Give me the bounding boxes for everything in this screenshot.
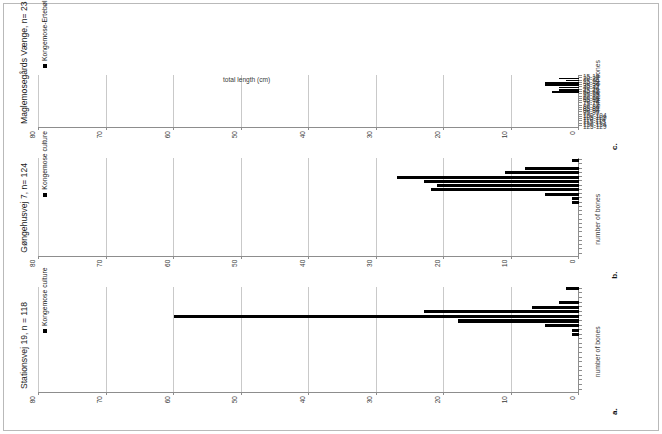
category-tickmark <box>579 361 582 362</box>
category-tickmark <box>579 123 582 124</box>
bar-25-29 <box>525 167 579 170</box>
category-tickmark <box>579 77 582 78</box>
bar-30-34 <box>505 171 579 174</box>
category-tickmark <box>579 197 582 198</box>
category-tickmark <box>579 116 582 117</box>
value-tickmark-80 <box>38 256 39 259</box>
category-tickmark <box>579 315 582 316</box>
panel-a: Stationsvej 19, n = 118 Kongemose cultur… <box>17 283 645 419</box>
panel-c-title: Maglemosegårds Vænge, n= 23 <box>19 1 29 124</box>
value-tickmark-0 <box>578 392 579 395</box>
bar-40-44 <box>424 310 579 313</box>
bar-45-49 <box>437 184 579 187</box>
panel-b-title: Gøngehusvej 7, n= 124 <box>19 163 29 253</box>
category-tickmark <box>579 80 582 81</box>
category-tickmark <box>579 82 582 83</box>
bar-60-64 <box>572 197 579 200</box>
value-tick-70: 70 <box>97 260 103 280</box>
panel-b-bars <box>39 158 579 256</box>
category-tickmark <box>579 105 582 106</box>
category-tickmark <box>579 189 582 190</box>
value-tick-20: 20 <box>435 260 441 280</box>
value-tick-40: 40 <box>300 131 306 151</box>
value-tickmark-30 <box>376 256 377 259</box>
category-tickmark <box>579 329 582 330</box>
panel-b-value-axis-title: number of bones <box>594 155 601 284</box>
rotated-chart-stage: Stationsvej 19, n = 118 Kongemose cultur… <box>17 15 645 419</box>
panel-c-legend-label: Kongemose-Ertebølle transition <box>41 0 48 61</box>
value-tickmark-10 <box>511 256 512 259</box>
value-tickmark-0 <box>578 256 579 259</box>
category-tickmark <box>579 118 582 119</box>
category-tickmark <box>579 357 582 358</box>
category-tickmark <box>579 89 582 90</box>
category-tickmark <box>579 93 582 94</box>
value-tick-80: 80 <box>30 131 36 151</box>
bar-30-34 <box>559 301 579 304</box>
panel-c-legend: Kongemose-Ertebølle transition <box>41 0 48 68</box>
panel-c-letter: c. <box>610 143 619 150</box>
category-tickmark <box>579 253 582 254</box>
value-tickmark-70 <box>106 256 107 259</box>
panel-c-value-axis-title: number of bones <box>594 16 601 155</box>
value-tickmark-40 <box>308 256 309 259</box>
category-tickmark <box>579 223 582 224</box>
value-tickmark-40 <box>308 127 309 130</box>
value-tickmark-70 <box>106 392 107 395</box>
category-tickmark <box>579 297 582 298</box>
category-tickmark <box>579 202 582 203</box>
category-tickmark <box>579 109 582 110</box>
value-tick-80: 80 <box>30 396 36 416</box>
bar-cell <box>39 387 579 392</box>
panel-c: Maglemosegårds Vænge, n= 23 Kongemose-Er… <box>17 15 645 154</box>
category-tickmark <box>579 248 582 249</box>
value-tick-30: 30 <box>367 131 373 151</box>
category-tickmark <box>579 384 582 385</box>
category-tickmark <box>579 244 582 245</box>
value-tick-60: 60 <box>165 131 171 151</box>
category-tickmark <box>579 193 582 194</box>
category-tickmark <box>579 379 582 380</box>
bar-cell <box>39 251 579 255</box>
panel-a-letter: a. <box>610 408 619 415</box>
value-tickmark-60 <box>173 392 174 395</box>
value-tickmark-40 <box>308 392 309 395</box>
category-tickmark <box>579 75 582 76</box>
bar-40-44 <box>424 180 579 183</box>
value-tick-50: 50 <box>232 260 238 280</box>
bar-50-54 <box>431 188 580 191</box>
value-tick-40: 40 <box>300 260 306 280</box>
value-tickmark-30 <box>376 127 377 130</box>
category-tickmark <box>579 389 582 390</box>
panel-container: Stationsvej 19, n = 118 Kongemose cultur… <box>17 15 645 419</box>
value-tickmark-20 <box>443 127 444 130</box>
category-tickmark <box>579 236 582 237</box>
category-tickmark <box>579 227 582 228</box>
value-tick-0: 0 <box>570 131 576 151</box>
value-tick-60: 60 <box>165 396 171 416</box>
bar-cell <box>39 125 579 127</box>
category-tickmark <box>579 91 582 92</box>
value-tickmark-50 <box>241 392 242 395</box>
category-tickmark <box>579 210 582 211</box>
category-tickmark <box>579 100 582 101</box>
bar-65-69 <box>572 333 579 336</box>
category-tickmark <box>579 334 582 335</box>
bar-50-54 <box>458 319 580 322</box>
category-tickmark <box>579 125 582 126</box>
legend-square-icon <box>43 64 47 68</box>
category-tickmark <box>579 240 582 241</box>
panel-b-plot: 01020304050607080 <box>39 158 579 257</box>
value-tickmark-60 <box>173 256 174 259</box>
value-tick-80: 80 <box>30 260 36 280</box>
value-tickmark-0 <box>578 127 579 130</box>
category-tickmark <box>579 288 582 289</box>
panel-b-letter: b. <box>610 272 619 279</box>
value-tick-30: 30 <box>367 396 373 416</box>
value-tick-70: 70 <box>97 131 103 151</box>
value-tickmark-70 <box>106 127 107 130</box>
category-tickmark <box>579 320 582 321</box>
category-tickmark <box>579 114 582 115</box>
value-tick-0: 0 <box>570 260 576 280</box>
bar-15-19 <box>566 287 580 290</box>
